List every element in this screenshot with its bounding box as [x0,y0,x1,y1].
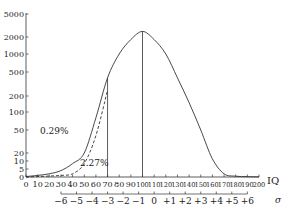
y-tick-label: 100 [9,108,24,117]
x-tick-label: 40 [68,180,78,189]
y-axis: 05102050100200500100020005000 [4,10,29,182]
x-axis: 0102030405060708090100110120130140150160… [23,175,265,190]
sigma-tick-label: −3 [101,196,115,206]
sigma-tick-label: +5 [225,196,239,206]
y-tick-label: 5 [19,165,24,174]
x-tick-label: 0 [23,180,28,189]
x-tick-label: 200 [253,181,266,189]
x-tick-label: 60 [91,180,101,189]
x-tick-label: 50 [79,180,89,189]
sigma-tick-label: +1 [163,196,176,206]
y-tick-label: 5000 [4,10,24,19]
sigma-tick-label: −6 [54,196,68,206]
y-tick-label: 500 [9,68,24,77]
y-tick-label: 200 [9,92,24,101]
y-tick-label: 2000 [4,33,24,42]
y-tick-label: 1000 [4,50,24,59]
sigma-tick-label: 0 [151,196,157,206]
x-tick-label: 10 [33,180,43,189]
sigma-tick-label: −1 [132,196,145,206]
sigma-tick-label: +3 [194,196,208,206]
x-tick-label: 70 [102,180,112,189]
sigma-tick-label: −5 [70,196,84,206]
sigma-tick-label: −4 [85,196,99,206]
x-tick-label: 30 [56,180,66,189]
y-tick-label: 50 [14,126,24,135]
annotation-left: 0.29% [40,126,69,136]
sigma-tick-label: +6 [241,196,255,206]
sigma-axis-title: σ [275,195,282,205]
sigma-axis: −6−5−4−3−2−10+1+2+3+4+5+6 [54,192,254,207]
x-axis-title: IQ [267,175,279,186]
sigma-tick-label: −2 [116,196,129,206]
x-tick-label: 90 [126,180,136,189]
annotation-right: 2.27% [80,158,109,168]
curves [26,31,259,177]
x-tick-label: 80 [114,180,124,189]
sigma-tick-label: +2 [179,196,192,206]
y-tick-label: 20 [14,149,24,158]
y-tick-label: 10 [14,157,24,166]
sigma-tick-label: +4 [210,196,224,206]
iq-distribution-chart: 05102050100200500100020005000 0102030405… [0,0,290,214]
x-tick-label: 20 [44,180,54,189]
